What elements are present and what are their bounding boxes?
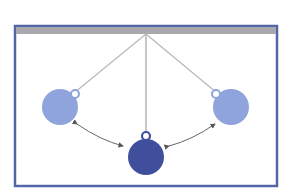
pendulum-canvas [0,0,294,194]
pendulum-diagram [0,0,294,194]
ceiling-bar [16,27,276,34]
